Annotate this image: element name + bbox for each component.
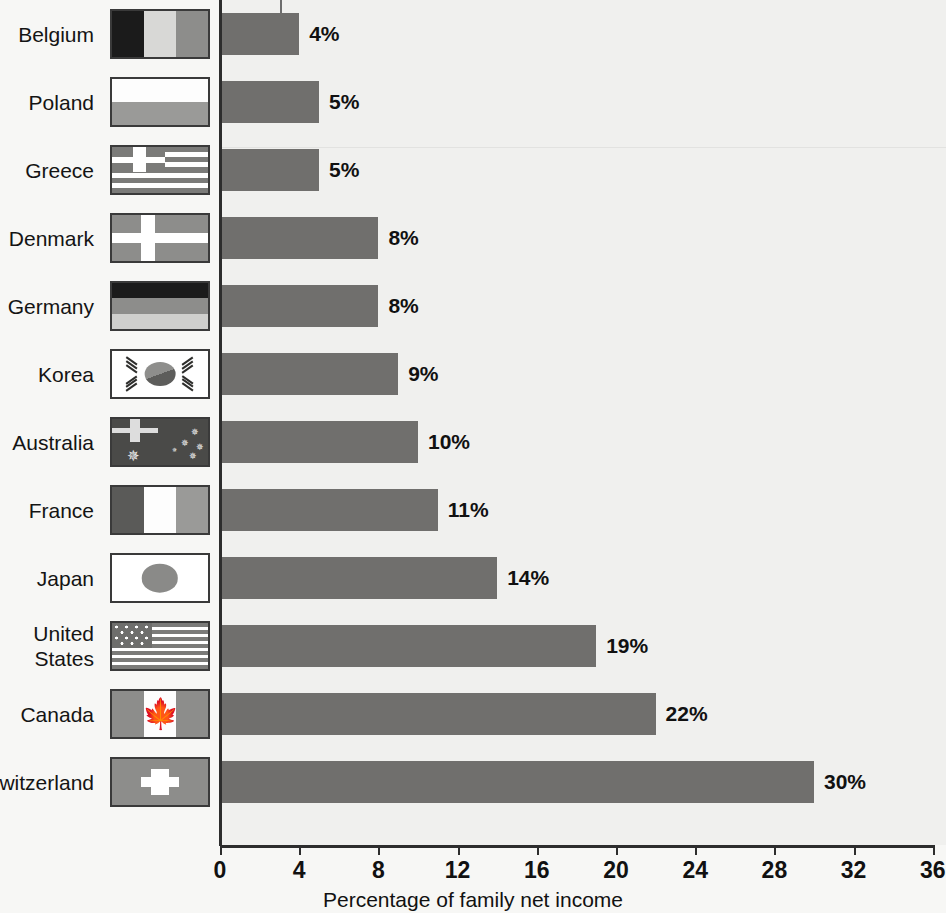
bar-value-label: 19%: [606, 632, 648, 660]
bar: [220, 217, 378, 259]
country-label: Belgium: [0, 0, 100, 68]
x-axis-tick-label: 32: [841, 857, 867, 884]
korea-flag: [110, 349, 210, 399]
bar-value-label: 8%: [388, 292, 418, 320]
bar-row: Canada🍁22%: [0, 680, 946, 748]
x-axis-tick-label: 20: [603, 857, 629, 884]
x-axis-tick: [537, 845, 539, 855]
bar-row: Switzerland30%: [0, 748, 946, 816]
country-label: Switzerland: [0, 748, 100, 816]
x-axis-title: Percentage of family net income: [0, 888, 946, 912]
country-label: Denmark: [0, 204, 100, 272]
country-label: Japan: [0, 544, 100, 612]
x-axis-tick: [933, 845, 935, 855]
x-axis-tick-label: 16: [524, 857, 550, 884]
bar-row: Belgium4%: [0, 0, 946, 68]
belgium-flag: [110, 9, 210, 59]
country-label: Korea: [0, 340, 100, 408]
country-label: Canada: [0, 680, 100, 748]
country-label: Poland: [0, 68, 100, 136]
x-axis-tick: [299, 845, 301, 855]
x-axis-tick: [616, 845, 618, 855]
country-label: United States: [0, 612, 100, 680]
denmark-flag: [110, 213, 210, 263]
japan-flag: [110, 553, 210, 603]
bar: [220, 489, 438, 531]
switzerland-flag: [110, 757, 210, 807]
x-axis-tick-label: 8: [372, 857, 385, 884]
bar-row: Korea9%: [0, 340, 946, 408]
x-axis-tick-label: 36: [920, 857, 946, 884]
country-label: France: [0, 476, 100, 544]
x-axis-tick: [378, 845, 380, 855]
x-axis-tick: [695, 845, 697, 855]
bar: [220, 353, 398, 395]
canada-flag: 🍁: [110, 689, 210, 739]
bar-value-label: 4%: [309, 20, 339, 48]
poland-flag: [110, 77, 210, 127]
x-axis-tick-label: 12: [445, 857, 471, 884]
bar-value-label: 30%: [824, 768, 866, 796]
germany-flag: [110, 281, 210, 331]
bar: [220, 557, 497, 599]
united-states-flag: [110, 621, 210, 671]
bar-row: Denmark8%: [0, 204, 946, 272]
bar-row: Greece5%: [0, 136, 946, 204]
australia-flag: ✵✵✵✵✵✵: [110, 417, 210, 467]
greece-flag: [110, 145, 210, 195]
x-axis-tick: [854, 845, 856, 855]
x-axis-tick: [458, 845, 460, 855]
bar-row: France11%: [0, 476, 946, 544]
france-flag: [110, 485, 210, 535]
bar: [220, 421, 418, 463]
bar-row: Germany8%: [0, 272, 946, 340]
bar-value-label: 14%: [507, 564, 549, 592]
bar-row: Japan14%: [0, 544, 946, 612]
bar: [220, 761, 814, 803]
bar: [220, 693, 656, 735]
bar-row: Australia✵✵✵✵✵✵10%: [0, 408, 946, 476]
bar-chart: Belgium4%Poland5%Greece5%Denmark8%German…: [0, 0, 946, 913]
bar: [220, 81, 319, 123]
bar-row: United States19%: [0, 612, 946, 680]
country-label: Germany: [0, 272, 100, 340]
bar: [220, 149, 319, 191]
y-axis-line: [219, 0, 222, 846]
country-label: Australia: [0, 408, 100, 476]
bar: [220, 625, 596, 667]
bar: [220, 285, 378, 327]
x-axis-tick: [774, 845, 776, 855]
country-label: Greece: [0, 136, 100, 204]
bar-value-label: 22%: [666, 700, 708, 728]
bar-value-label: 11%: [448, 496, 489, 524]
x-axis-tick-label: 24: [682, 857, 708, 884]
bar-row: Poland5%: [0, 68, 946, 136]
x-axis-line: [220, 845, 933, 848]
bar-value-label: 9%: [408, 360, 438, 388]
x-axis-tick: [220, 845, 222, 855]
bar-value-label: 10%: [428, 428, 470, 456]
bar-value-label: 5%: [329, 88, 359, 116]
x-axis-tick-label: 0: [214, 857, 227, 884]
x-axis-tick-label: 4: [293, 857, 306, 884]
bar-value-label: 5%: [329, 156, 359, 184]
bar-value-label: 8%: [388, 224, 418, 252]
bar: [220, 13, 299, 55]
x-axis-tick-label: 28: [762, 857, 788, 884]
